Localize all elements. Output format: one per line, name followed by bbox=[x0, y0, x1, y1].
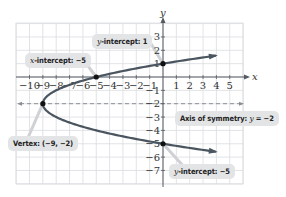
x-axis-arrow-icon bbox=[244, 75, 250, 80]
x-axis-label: x bbox=[252, 71, 258, 82]
x-tick-label: 1 bbox=[173, 80, 179, 91]
x-tick-label: 2 bbox=[187, 80, 193, 91]
y-tick-label: 3 bbox=[154, 31, 160, 42]
key-point-dot bbox=[160, 141, 165, 146]
y-tick-label: 2 bbox=[154, 45, 160, 56]
key-point-dot bbox=[94, 74, 99, 79]
callout-x-intercept: x-intercept: −5 bbox=[25, 53, 91, 68]
callout-axis-of-symmetry: Axis of symmetry: y = −2 bbox=[175, 111, 279, 126]
x-tick-label: 3 bbox=[200, 80, 206, 91]
coordinate-plane: −10−9−8−7−6−5−4−3−2−112345321−1−2−3−4−5−… bbox=[0, 0, 286, 197]
y-tick-label: −3 bbox=[145, 112, 160, 123]
callout-text: -intercept: 1 bbox=[101, 37, 147, 46]
y-tick-label: −4 bbox=[145, 125, 160, 136]
key-point-dot bbox=[160, 61, 165, 66]
x-tick-label: 5 bbox=[227, 80, 233, 91]
callout-y-intercept-top: y-intercept: 1 bbox=[92, 34, 152, 49]
parabola-graph: −10−9−8−7−6−5−4−3−2−112345321−1−2−3−4−5−… bbox=[0, 0, 286, 197]
callout-suffix: = −2 bbox=[254, 114, 274, 123]
y-tick-label: −7 bbox=[145, 165, 160, 176]
callout-text: -intercept: −5 bbox=[34, 56, 86, 65]
callout-text: Axis of symmetry: bbox=[180, 114, 249, 123]
y-tick-label: −1 bbox=[145, 85, 160, 96]
symmetry-arrow-left-icon bbox=[17, 102, 22, 106]
x-tick-label: 4 bbox=[213, 80, 219, 91]
callout-text: Vertex: (−9, −2) bbox=[13, 139, 73, 148]
callout-vertex: Vertex: (−9, −2) bbox=[8, 136, 78, 151]
key-point-dot bbox=[40, 101, 45, 106]
callout-y-intercept-bottom: y-intercept: −5 bbox=[169, 164, 235, 179]
y-axis-label: y bbox=[159, 7, 166, 18]
y-tick-label: −2 bbox=[145, 98, 160, 109]
y-tick-label: −6 bbox=[145, 152, 160, 163]
callout-text: -intercept: −5 bbox=[178, 167, 230, 176]
